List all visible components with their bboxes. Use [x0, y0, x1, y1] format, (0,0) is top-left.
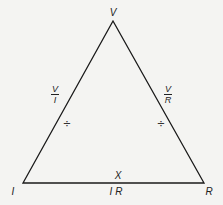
fraction-numerator: V: [51, 85, 59, 95]
multiply-icon-bottom: X: [115, 171, 122, 181]
right-edge-fraction-v-over-r: V R: [164, 85, 172, 105]
vertex-label-v: V: [110, 8, 117, 18]
divide-icon-right: ÷: [157, 119, 165, 129]
ohms-law-triangle-diagram: V I R V I V R ÷ ÷ X I R: [0, 0, 223, 205]
vertex-label-i: I: [12, 187, 15, 197]
bottom-edge-expression-ir: I R: [110, 187, 123, 197]
vertex-label-r: R: [205, 187, 212, 197]
triangle-outline: [0, 0, 223, 205]
fraction-denominator: I: [54, 95, 57, 105]
fraction-numerator: V: [164, 85, 172, 95]
left-edge-fraction-v-over-i: V I: [51, 85, 59, 105]
fraction-denominator: R: [165, 95, 172, 105]
divide-icon-left: ÷: [63, 119, 71, 129]
